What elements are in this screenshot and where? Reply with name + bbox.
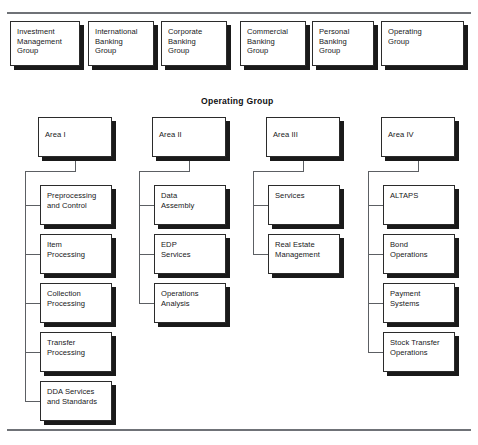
operations-analysis-box[interactable]: Operations Analysis bbox=[154, 283, 226, 323]
real-estate-management-box[interactable]: Real Estate Management bbox=[268, 234, 340, 274]
area-iv-elbow-connector bbox=[368, 171, 419, 172]
area-iii-box[interactable]: Area III bbox=[266, 117, 340, 157]
area-iv-drop-connector bbox=[418, 157, 419, 171]
area-iii-stub-connector-1 bbox=[253, 254, 268, 255]
area-i-elbow-connector bbox=[25, 171, 76, 172]
area-i-stub-connector-3 bbox=[25, 352, 40, 353]
area-iii-spine-connector bbox=[253, 171, 254, 254]
area-ii-stub-connector-1 bbox=[139, 254, 154, 255]
area-i-box[interactable]: Area I bbox=[38, 117, 112, 157]
area-ii-spine-connector bbox=[139, 171, 140, 303]
area-iv-stub-connector-1 bbox=[368, 254, 383, 255]
item-processing-box[interactable]: Item Processing bbox=[40, 234, 112, 274]
area-ii-elbow-connector bbox=[139, 171, 190, 172]
org-chart-page: Investment Management GroupInternational… bbox=[0, 0, 478, 445]
area-i-stub-connector-2 bbox=[25, 303, 40, 304]
area-ii-stub-connector-0 bbox=[139, 205, 154, 206]
area-ii-box[interactable]: Area II bbox=[152, 117, 226, 157]
preprocessing-and-control-box[interactable]: Preprocessing and Control bbox=[40, 185, 112, 225]
commercial-banking-group-box[interactable]: Commercial Banking Group bbox=[240, 21, 306, 66]
dda-services-and-standards-box[interactable]: DDA Services and Standards bbox=[40, 381, 112, 421]
area-i-stub-connector-0 bbox=[25, 205, 40, 206]
area-iv-stub-connector-0 bbox=[368, 205, 383, 206]
international-banking-group-box[interactable]: International Banking Group bbox=[88, 21, 154, 66]
area-iv-box[interactable]: Area IV bbox=[381, 117, 455, 157]
area-iv-stub-connector-2 bbox=[368, 303, 383, 304]
services-box[interactable]: Services bbox=[268, 185, 340, 225]
area-iii-stub-connector-0 bbox=[253, 205, 268, 206]
area-ii-stub-connector-2 bbox=[139, 303, 154, 304]
transfer-processing-box[interactable]: Transfer Processing bbox=[40, 332, 112, 372]
area-i-drop-connector bbox=[75, 157, 76, 171]
bottom-divider-rule bbox=[7, 429, 471, 431]
bond-operations-box[interactable]: Bond Operations bbox=[383, 234, 455, 274]
area-i-stub-connector-4 bbox=[25, 401, 40, 402]
personal-banking-group-box[interactable]: Personal Banking Group bbox=[312, 21, 374, 66]
operating-group-box[interactable]: Operating Group bbox=[381, 21, 464, 66]
collection-processing-box[interactable]: Collection Processing bbox=[40, 283, 112, 323]
top-divider-rule bbox=[7, 12, 471, 14]
edp-services-box[interactable]: EDP Services bbox=[154, 234, 226, 274]
corporate-banking-group-box[interactable]: Corporate Banking Group bbox=[161, 21, 227, 66]
area-iii-elbow-connector bbox=[253, 171, 304, 172]
payment-systems-box[interactable]: Payment Systems bbox=[383, 283, 455, 323]
altaps-box[interactable]: ALTAPS bbox=[383, 185, 455, 225]
area-ii-drop-connector bbox=[189, 157, 190, 171]
section-heading: Operating Group bbox=[201, 96, 274, 106]
stock-transfer-operations-box[interactable]: Stock Transfer Operations bbox=[383, 332, 455, 372]
data-assembly-box[interactable]: Data Assembly bbox=[154, 185, 226, 225]
area-i-stub-connector-1 bbox=[25, 254, 40, 255]
area-iv-spine-connector bbox=[368, 171, 369, 352]
investment-management-group-box[interactable]: Investment Management Group bbox=[10, 21, 80, 66]
area-iii-drop-connector bbox=[303, 157, 304, 171]
area-iv-stub-connector-3 bbox=[368, 352, 383, 353]
